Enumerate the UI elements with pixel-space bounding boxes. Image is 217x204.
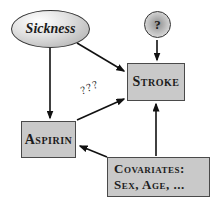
node-stroke-label: Stroke [133, 74, 180, 90]
node-aspirin: Aspirin [21, 121, 76, 158]
node-unknown-confounder: ? [144, 11, 171, 38]
node-sickness-label: Sickness [26, 21, 76, 37]
edge-covariates-aspirin [80, 146, 107, 157]
node-covariates-label-line1: Covariates: [114, 161, 185, 177]
edge-sickness-stroke [77, 43, 124, 71]
node-sickness: Sickness [11, 10, 90, 48]
node-covariates-label-line2: Sex, Age, ... [114, 177, 185, 193]
node-unknown-label: ? [154, 17, 161, 33]
node-stroke: Stroke [127, 63, 185, 101]
node-aspirin-label: Aspirin [25, 132, 73, 148]
diagram-canvas: Sickness ? Stroke Aspirin Covariates: Se… [0, 0, 217, 204]
edge-aspirin-stroke [77, 99, 124, 120]
node-covariates: Covariates: Sex, Age, ... [107, 157, 210, 197]
